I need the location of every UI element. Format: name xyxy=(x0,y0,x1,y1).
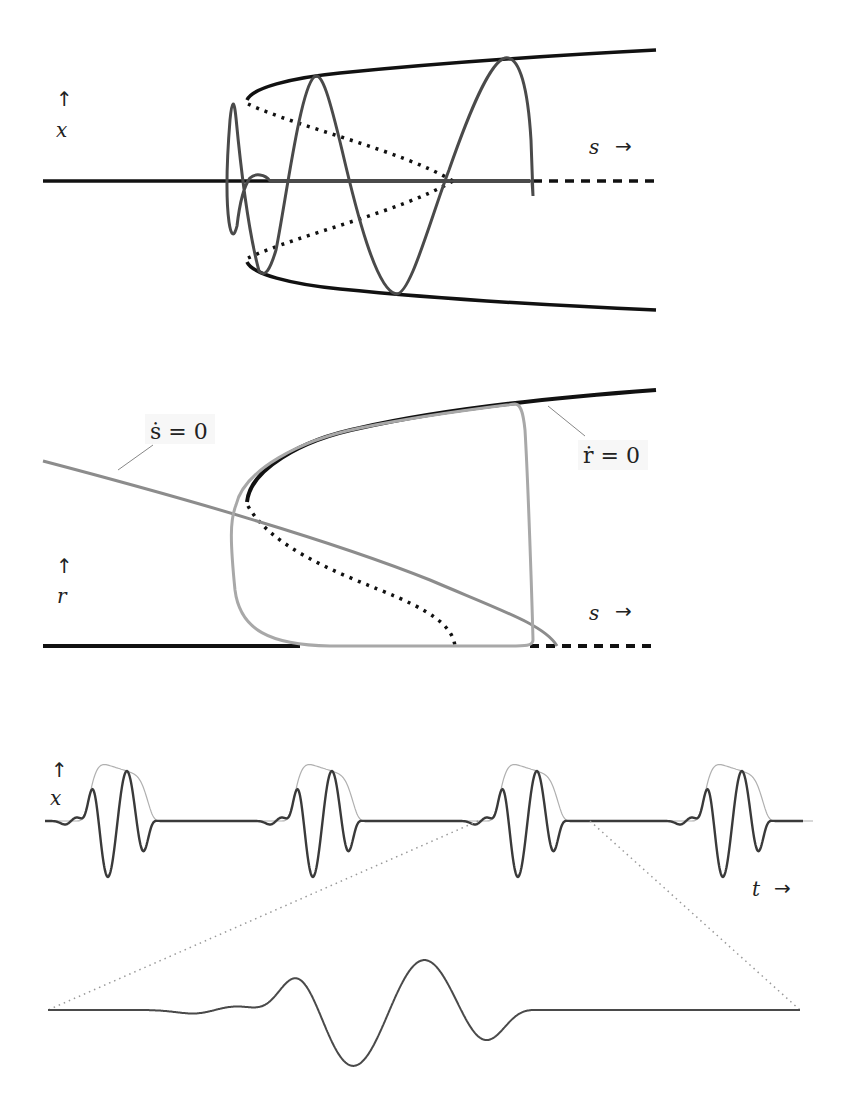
upper-unstable-branch xyxy=(248,104,453,181)
x-axis-arrow: → xyxy=(774,876,791,900)
s-nullcline xyxy=(43,461,557,646)
x-axis-label: t xyxy=(752,877,761,901)
y-axis-label: x xyxy=(56,118,67,142)
s-nullcline-label: ṡ = 0 xyxy=(150,419,208,444)
x-of-t-trace xyxy=(45,771,803,877)
s-nullcline-leader xyxy=(118,445,153,470)
x-axis-arrow: → xyxy=(615,599,632,623)
y-axis-arrow: ↑ xyxy=(51,758,68,782)
zoom-guide-left xyxy=(48,821,478,1010)
y-axis-label: x xyxy=(50,786,61,810)
burst-envelope xyxy=(48,765,198,821)
y-axis-arrow: ↑ xyxy=(56,87,73,111)
r-nullcline-label: ṙ = 0 xyxy=(583,443,640,468)
zoom-guide-right xyxy=(590,821,800,1010)
x-axis-arrow: → xyxy=(615,134,632,158)
burst-envelope xyxy=(458,765,608,821)
x-axis-label: s xyxy=(589,601,599,625)
lower-stable-branch xyxy=(247,262,656,310)
figure: ↑ x s → ṡ = 0 ṙ = 0 ↑ r s → ↑ xyxy=(0,0,846,1110)
limit-cycle xyxy=(231,404,533,646)
upper-stable-branch xyxy=(247,50,656,100)
burst-envelope xyxy=(253,765,403,821)
x-axis-label: s xyxy=(589,135,599,159)
magnified-trace xyxy=(48,960,800,1066)
y-axis-label: r xyxy=(57,584,68,608)
y-axis-arrow: ↑ xyxy=(56,554,73,578)
magnified-burst xyxy=(48,960,800,1066)
r-nullcline-leader xyxy=(548,406,585,436)
panel-top: ↑ x s → xyxy=(43,50,656,310)
trajectory xyxy=(227,58,533,294)
panel-bottom: ↑ x t → xyxy=(45,758,813,1066)
time-series xyxy=(45,765,813,877)
burst-envelope xyxy=(663,765,813,821)
panel-middle: ṡ = 0 ṙ = 0 ↑ r s → xyxy=(43,390,656,646)
